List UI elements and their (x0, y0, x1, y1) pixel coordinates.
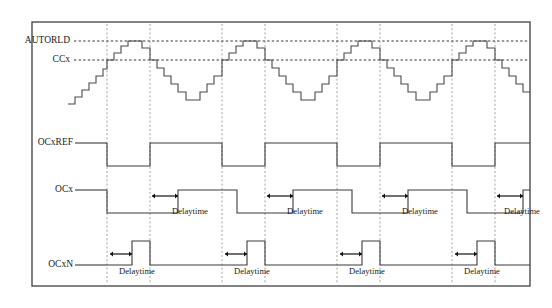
delay-arrow-head-left-ocxn-0 (110, 252, 113, 257)
delay-arrow-head-left-ocxn-1 (225, 252, 228, 257)
delay-arrow-head-left-ocx-1 (267, 194, 270, 199)
delaytime-label-ocx-3: Delaytime (504, 206, 540, 216)
signal-label-ocxn: OCxN (48, 259, 73, 269)
delaytime-label-ocxn-2: Delaytime (349, 266, 385, 276)
delaytime-label-ocx-2: Delaytime (402, 206, 438, 216)
delaytime-label-ocx-0: Delaytime (172, 206, 208, 216)
level-label-autorld: AUTORLD (25, 35, 70, 45)
delay-arrow-head-left-ocx-2 (382, 194, 385, 199)
delaytime-label-ocxn-0: Delaytime (119, 266, 155, 276)
delaytime-label-ocxn-1: Delaytime (234, 266, 270, 276)
delay-arrow-head-left-ocx-3 (497, 194, 500, 199)
delaytime-label-ocx-1: Delaytime (287, 206, 323, 216)
signal-lead-lines-group (75, 143, 107, 265)
signal-label-ocxref: OCxREF (38, 137, 73, 147)
ocxref-waveform (107, 143, 530, 166)
delaytime-label-ocxn-3: Delaytime (464, 266, 500, 276)
delay-arrow-head-left-ocxn-3 (455, 252, 458, 257)
delay-arrow-head-left-ocxn-2 (340, 252, 343, 257)
counter-waveform (68, 41, 530, 104)
timing-diagram-svg: AUTORLD CCx OCxREF OCx OCxN DelaytimeDel… (0, 0, 552, 308)
ocxn-waveform (107, 241, 530, 265)
delay-arrow-head-left-ocx-0 (152, 194, 155, 199)
gridlines-group (107, 24, 495, 284)
level-label-ccx: CCx (53, 54, 71, 64)
delaytime-markers-group: DelaytimeDelaytimeDelaytimeDelaytimeDela… (110, 194, 540, 276)
timing-diagram-root: AUTORLD CCx OCxREF OCx OCxN DelaytimeDel… (0, 0, 552, 308)
signal-label-ocx: OCx (55, 184, 73, 194)
